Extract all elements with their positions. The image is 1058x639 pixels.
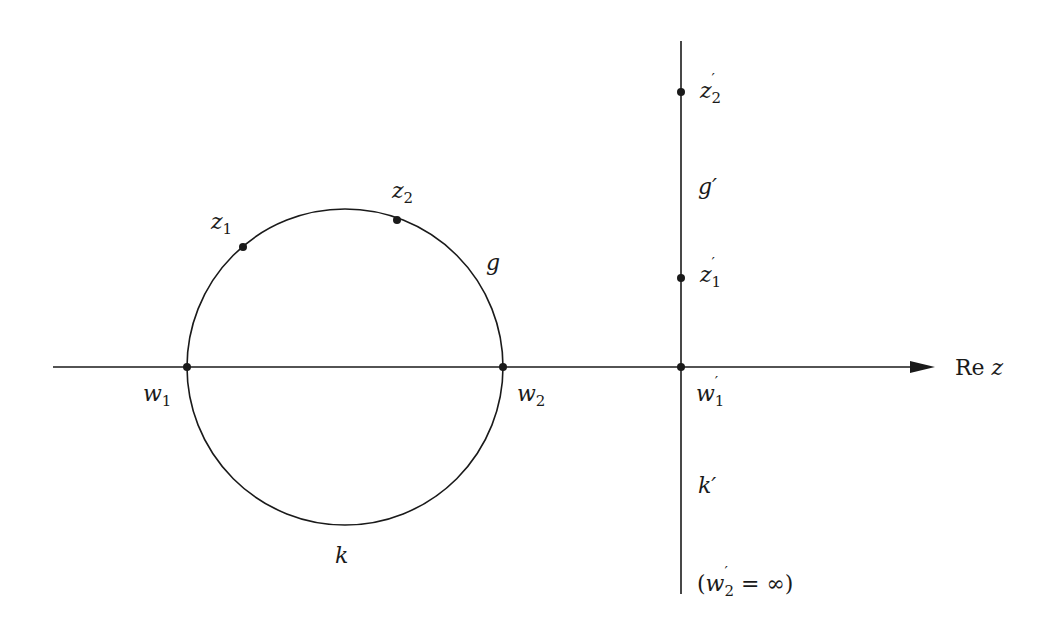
point-z2-prime [677,88,685,96]
label-w1: w1 [143,383,171,409]
point-z1 [239,243,247,251]
label-z1-prime: z′1 [700,264,721,290]
label-w2: w2 [517,383,545,409]
point-w1-prime [677,363,685,371]
label-k-prime: k′ [698,475,716,497]
point-w2 [499,363,507,371]
label-z1: z1 [211,211,232,237]
axis-label-re-z: Re z [955,357,1003,379]
label-w2-prime-infinity: (w′2 = ∞) [697,573,793,599]
point-z2 [393,216,401,224]
diagram-canvas [0,0,1058,639]
label-z2: z2 [392,180,413,206]
axis-arrowhead-icon [910,361,935,373]
label-k: k [335,545,348,567]
label-g: g [486,252,500,274]
label-z2-prime: z′2 [700,80,721,106]
point-z1-prime [677,274,685,282]
label-w1-prime: w′1 [696,383,724,409]
label-g-prime: g′ [698,176,717,198]
point-w1 [183,363,191,371]
